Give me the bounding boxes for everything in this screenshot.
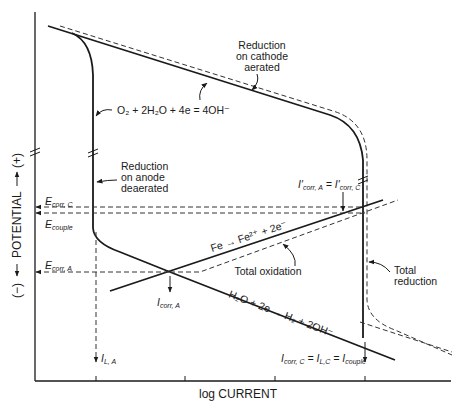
svg-text:Total oxidation: Total oxidation [234,265,301,277]
i-couple-label: Icorr, C = IL,C = Icouple [281,352,366,366]
i-l-a-label: IL, A [101,352,116,365]
e-couple-label: Ecouple [45,218,73,232]
x-axis-label: log CURRENT [199,387,278,401]
label-oxygen-reaction: O₂ + 2H₂O + 4e = 4OH⁻ [96,83,230,116]
label-reduction-anode: Reduction on anode deaerated [97,160,168,194]
svg-text:reduction: reduction [394,275,437,287]
water-reduction-label: H₂O + 2e → H₂ + 2OH⁻ [227,288,335,339]
svg-text:(+): (+) [10,153,24,168]
polarization-diagram: log CURRENT (−) POTENTIAL (+) [0,0,458,410]
label-total-reduction: Total reduction [369,262,437,287]
potential-lines [36,207,365,272]
svg-text:deaerated: deaerated [121,182,168,194]
svg-text:POTENTIAL: POTENTIAL [10,191,24,258]
y-axis-label: (−) POTENTIAL (+) [10,153,24,298]
cathode-reduction-curve [48,26,363,338]
anode-reduction-curve [72,33,395,360]
e-corr-a-label: Ecorr, A [45,259,72,272]
svg-text:O₂ + 2H₂O + 4e = 4OH⁻: O₂ + 2H₂O + 4e = 4OH⁻ [117,104,230,116]
label-total-oxidation: Total oxidation [234,244,301,277]
i-prime-label: I′corr, A = I′corr, C [298,178,361,191]
label-reduction-cathode: Reduction on cathode aerated [236,39,288,90]
svg-text:aerated: aerated [244,61,280,73]
total-reduction-curve-2 [360,322,452,352]
svg-text:(−): (−) [10,283,24,298]
e-corr-c-label: Ecorr, C [45,195,74,208]
i-corr-a-label: Icorr, A [157,296,180,309]
iron-oxidation-line [110,200,383,291]
x-ticks [96,376,365,381]
